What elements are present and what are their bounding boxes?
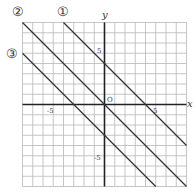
line-label-3: ③ bbox=[6, 47, 18, 60]
line-label-2: ② bbox=[12, 5, 24, 18]
line-3 bbox=[23, 53, 156, 186]
x-tick-pos5: 5 bbox=[153, 108, 157, 115]
y-axis-label: y bbox=[102, 10, 108, 20]
y-tick-neg5: -5 bbox=[94, 155, 101, 162]
line-label-1: ① bbox=[57, 5, 69, 18]
y-tick-pos5: 5 bbox=[97, 48, 101, 55]
x-axis-label: x bbox=[187, 99, 193, 109]
x-tick-neg5: -5 bbox=[47, 108, 54, 115]
origin-label: O bbox=[107, 97, 113, 104]
coordinate-plane bbox=[0, 0, 196, 196]
